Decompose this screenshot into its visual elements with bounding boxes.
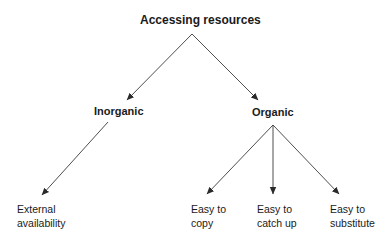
resource-access-diagram: Accessing resources Inorganic Organic Ex… [0,0,388,239]
node-easy-to-catch-up-line1: Easy to [257,202,297,216]
node-external-availability-line1: External [17,202,65,216]
node-easy-to-copy: Easy to copy [191,202,226,230]
edge-organic-to-easy-to-substitute [273,125,339,194]
edge-root-to-inorganic [127,34,192,100]
node-inorganic: Inorganic [94,106,144,117]
node-accessing-resources: Accessing resources [140,14,261,26]
node-easy-to-catch-up-line2: catch up [257,216,297,230]
node-easy-to-substitute-line2: substitute [330,216,375,230]
node-easy-to-copy-line1: Easy to [191,202,226,216]
edge-organic-to-easy-to-copy [207,125,273,194]
node-easy-to-substitute: Easy to substitute [330,202,375,230]
edge-inorganic-to-external-availability [42,122,108,195]
node-easy-to-catch-up: Easy to catch up [257,202,297,230]
node-organic: Organic [252,107,294,118]
node-easy-to-substitute-line1: Easy to [330,202,375,216]
node-external-availability: External availability [17,202,65,230]
node-easy-to-copy-line2: copy [191,216,226,230]
node-external-availability-line2: availability [17,216,65,230]
edge-root-to-organic [192,34,258,100]
